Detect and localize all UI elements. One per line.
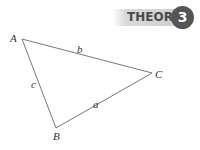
vertex-c-label: C [155, 68, 163, 80]
vertex-a-label: A [9, 32, 17, 44]
triangle-shape [22, 39, 152, 128]
vertex-b-label: B [53, 130, 60, 142]
side-b-label: b [77, 43, 83, 55]
side-a-label: a [93, 98, 99, 110]
side-c-label: c [31, 78, 36, 90]
triangle-diagram: A C B b c a [0, 0, 200, 150]
